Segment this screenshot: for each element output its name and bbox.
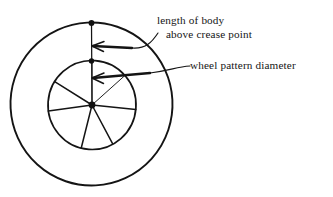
wheel-hub-point: [89, 102, 96, 109]
length-of-body-label-line2: above crease point: [166, 28, 253, 40]
wheel-pattern-diagram: length of body above crease point wheel …: [0, 0, 333, 197]
vertical-construction-axis: [92, 23, 93, 105]
top-of-body-point: [89, 20, 95, 26]
crease-point: [89, 58, 94, 63]
wheel-pattern-diameter-label: wheel pattern diameter: [190, 59, 296, 71]
length-of-body-label-line1: length of body: [157, 14, 225, 26]
